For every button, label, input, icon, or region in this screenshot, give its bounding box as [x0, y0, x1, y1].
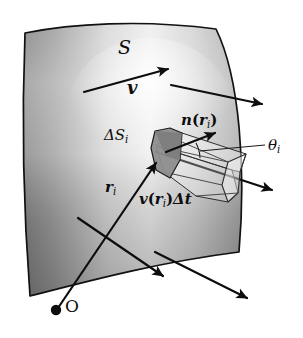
flow-arrow-bottom-right — [155, 252, 247, 298]
origin-dot — [51, 305, 61, 315]
label-velocity-v: v — [127, 79, 137, 97]
label-origin: O — [65, 298, 79, 315]
label-normal-vector: n(ri) — [181, 113, 217, 130]
label-surface-S: S — [118, 38, 131, 57]
label-area-element: ΔSi — [104, 128, 128, 145]
flux-diagram-figure: S v ΔSi n(ri) θi ri v(ri)Δt O — [0, 0, 303, 338]
label-displacement: v(ri)Δt — [139, 192, 192, 209]
diagram-canvas — [0, 0, 303, 338]
label-position-vector: ri — [105, 180, 116, 197]
label-theta-angle: θi — [268, 138, 280, 155]
